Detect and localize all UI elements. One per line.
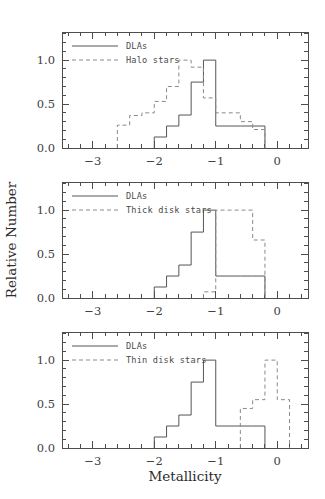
y-tick-label: 1.0 [37, 203, 55, 217]
x-tick-label: −1 [207, 304, 224, 318]
y-tick-label: 0.0 [37, 291, 55, 305]
legend-label: Thin disk stars [126, 355, 207, 365]
x-tick-label: −3 [84, 304, 101, 318]
y-tick-label: 0.5 [37, 97, 55, 111]
x-tick-label: −3 [84, 154, 101, 168]
x-tick-label: −2 [146, 304, 163, 318]
legend-label: Thick disk stars [126, 205, 212, 215]
y-tick-label: 1.0 [37, 353, 55, 367]
legend-label: Halo stars [126, 55, 180, 65]
y-axis-title: Relative Number [3, 181, 19, 298]
legend-label: DLAs [126, 341, 148, 351]
legend-label: DLAs [126, 41, 148, 51]
x-tick-label: 0 [274, 154, 281, 168]
figure-canvas: 0.00.51.0−3−2−10DLAsHalo stars0.00.51.0−… [0, 0, 325, 499]
y-tick-label: 0.0 [37, 141, 55, 155]
y-tick-label: 0.5 [37, 247, 55, 261]
x-tick-label: −1 [207, 154, 224, 168]
x-tick-label: 0 [274, 454, 281, 468]
x-tick-label: 0 [274, 304, 281, 318]
x-tick-label: −2 [146, 154, 163, 168]
y-tick-label: 0.5 [37, 397, 55, 411]
y-tick-label: 1.0 [37, 53, 55, 67]
x-tick-label: −1 [207, 454, 224, 468]
x-tick-label: −3 [84, 454, 101, 468]
metallicity-figure: 0.00.51.0−3−2−10DLAsHalo stars0.00.51.0−… [0, 0, 325, 499]
y-tick-label: 0.0 [37, 441, 55, 455]
x-axis-title: Metallicity [148, 468, 222, 484]
legend-label: DLAs [126, 191, 148, 201]
x-tick-label: −2 [146, 454, 163, 468]
